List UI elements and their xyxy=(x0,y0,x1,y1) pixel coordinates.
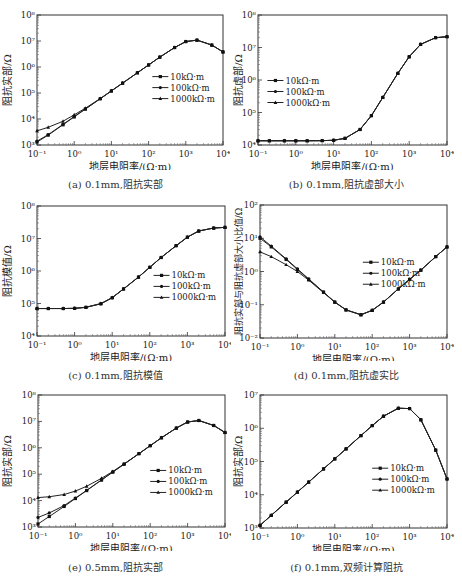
legend-entry: 10kΩ·m xyxy=(381,257,415,267)
legend-entry: 1000kΩ·m xyxy=(172,292,217,302)
y-tick-label: 10⁷ xyxy=(21,36,36,46)
y-tick-label: 10⁶ xyxy=(21,266,36,276)
x-tick-label: 10⁴ xyxy=(440,149,455,159)
y-axis-label: 阻抗模值/Ω xyxy=(1,245,13,297)
y-tick-label: 10⁸ xyxy=(21,201,36,211)
x-tick-label: 10¹ xyxy=(105,340,119,350)
chart-b: 10⁻¹10⁰10¹10²10³10⁴10⁴10⁵10⁶10⁷10⁸地层电阻率/… xyxy=(231,0,462,195)
x-tick-label: 10¹ xyxy=(328,532,342,542)
x-axis-label: 地层电阻率/(Ω·m) xyxy=(311,160,393,170)
x-tick-label: 10⁻¹ xyxy=(251,532,270,542)
y-tick-label: 10⁴ xyxy=(21,331,36,341)
legend-entry: 1000kΩ·m xyxy=(170,94,215,104)
y-tick-label: 10⁶ xyxy=(21,62,36,72)
x-tick-label: 10³ xyxy=(402,532,416,542)
legend-entry: 100kΩ·m xyxy=(172,281,211,291)
x-tick-label: 10² xyxy=(365,532,379,542)
x-axis-label: 地层电阻率/(Ω·m) xyxy=(312,543,394,551)
y-tick-label: 10⁷ xyxy=(22,416,37,426)
legend-entry: 10kΩ·m xyxy=(168,465,202,475)
chart-f-caption: (f) 0.1mm,双频计算阻抗 xyxy=(231,559,462,574)
chart-a-plot: 10⁻¹10⁰10¹10²10³10⁴10³10⁴10⁵10⁶10⁷10⁸地层电… xyxy=(0,0,231,170)
x-tick-label: 10³ xyxy=(179,149,193,159)
y-tick-label: 10⁷ xyxy=(242,43,257,53)
y-tick-label: 10⁶ xyxy=(22,443,37,453)
x-tick-label: 10⁰ xyxy=(68,531,83,541)
y-tick-label: 10¹ xyxy=(244,233,258,243)
x-tick-label: 10² xyxy=(143,531,157,541)
y-tick-label: 10⁶ xyxy=(242,75,257,85)
chart-b-caption: (b) 0.1mm,阻抗虚部大小 xyxy=(231,176,462,191)
x-tick-label: 10¹ xyxy=(106,531,120,541)
legend-entry: 1000kΩ·m xyxy=(168,487,213,497)
y-tick-label: 10⁷ xyxy=(244,390,259,400)
y-tick-label: 10⁵ xyxy=(22,469,37,479)
x-tick-label: 10⁻¹ xyxy=(28,149,47,159)
legend-entry: 100kΩ·m xyxy=(285,87,324,97)
legend-entry: 1000kΩ·m xyxy=(285,98,330,108)
y-tick-label: 10⁴ xyxy=(21,114,36,124)
x-axis-label: 地层电阻率/(Ω·m) xyxy=(89,160,171,170)
y-tick-label: 10² xyxy=(244,200,258,210)
y-tick-label: 10⁶ xyxy=(244,423,259,433)
legend-entry: 10kΩ·m xyxy=(172,270,206,280)
chart-a: 10⁻¹10⁰10¹10²10³10⁴10³10⁴10⁵10⁶10⁷10⁸地层电… xyxy=(0,0,231,195)
y-tick-label: 10⁵ xyxy=(21,299,36,309)
y-tick-label: 10³ xyxy=(22,522,36,532)
x-tick-label: 10⁰ xyxy=(290,342,305,352)
x-tick-label: 10⁰ xyxy=(290,532,305,542)
chart-e-plot: 10⁻¹10⁰10¹10²10³10⁴10³10⁴10⁵10⁶10⁷10⁸地层电… xyxy=(0,381,231,551)
chart-b-plot: 10⁻¹10⁰10¹10²10³10⁴10⁴10⁵10⁶10⁷10⁸地层电阻率/… xyxy=(231,0,462,170)
y-axis-label: 阻抗虚部/Ω xyxy=(232,54,244,106)
chart-d: 10⁻¹10⁰10¹10²10³10⁴10⁻²10⁻¹10⁰10¹10²地层电阻… xyxy=(231,191,462,386)
legend-entry: 1000kΩ·m xyxy=(390,485,435,495)
chart-d-plot: 10⁻¹10⁰10¹10²10³10⁴10⁻²10⁻¹10⁰10¹10²地层电阻… xyxy=(231,191,462,361)
x-tick-label: 10⁰ xyxy=(67,149,82,159)
x-tick-label: 10⁰ xyxy=(67,340,82,350)
chart-d-caption: (d) 0.1mm,阻抗虚实比 xyxy=(231,367,462,382)
x-tick-label: 10⁴ xyxy=(218,531,231,541)
x-axis-label: 地层电阻率/(Ω·m) xyxy=(90,351,172,361)
legend-entry: 10kΩ·m xyxy=(285,76,319,86)
x-axis-label: 地层电阻率/(Ω·m) xyxy=(312,353,394,361)
legend-entry: 1000kΩ·m xyxy=(381,279,426,289)
x-tick-label: 10⁰ xyxy=(289,149,304,159)
chart-c-plot: 10⁻¹10⁰10¹10²10³10⁴10⁴10⁵10⁶10⁷10⁸地层电阻率/… xyxy=(0,191,231,361)
x-tick-label: 10³ xyxy=(180,340,194,350)
chart-c-caption: (c) 0.1mm,阻抗模值 xyxy=(0,367,231,382)
x-tick-label: 10⁴ xyxy=(216,149,231,159)
x-tick-label: 10² xyxy=(365,342,379,352)
chart-c: 10⁻¹10⁰10¹10²10³10⁴10⁴10⁵10⁶10⁷10⁸地层电阻率/… xyxy=(0,191,231,386)
x-tick-label: 10⁴ xyxy=(218,340,231,350)
legend-entry: 10kΩ·m xyxy=(170,72,204,82)
y-tick-label: 10⁸ xyxy=(242,10,257,20)
x-tick-label: 10³ xyxy=(180,531,194,541)
y-tick-label: 10⁸ xyxy=(21,10,36,20)
y-axis-label: 阻抗实部/Ω xyxy=(1,54,13,106)
x-tick-label: 10⁻¹ xyxy=(28,340,47,350)
legend-entry: 100kΩ·m xyxy=(168,476,207,486)
y-axis-label: 阻抗实部与阻抗虚部大小比值/Ω xyxy=(233,208,244,336)
y-axis-label: 阻抗实部/Ω xyxy=(1,435,13,487)
chart-e: 10⁻¹10⁰10¹10²10³10⁴10³10⁴10⁵10⁶10⁷10⁸地层电… xyxy=(0,381,231,576)
x-tick-label: 10² xyxy=(364,149,378,159)
y-tick-label: 10⁸ xyxy=(22,390,37,400)
x-tick-label: 10¹ xyxy=(326,149,340,159)
y-tick-label: 10⁵ xyxy=(21,88,36,98)
legend-entry: 100kΩ·m xyxy=(390,474,429,484)
x-tick-label: 10² xyxy=(141,149,155,159)
x-tick-label: 10⁻¹ xyxy=(251,342,270,352)
y-tick-label: 10⁰ xyxy=(244,267,259,277)
y-tick-label: 10⁴ xyxy=(244,490,259,500)
y-tick-label: 10⁵ xyxy=(242,108,257,118)
x-tick-label: 10⁴ xyxy=(440,532,455,542)
x-tick-label: 10² xyxy=(143,340,157,350)
y-tick-label: 10⁵ xyxy=(244,457,259,467)
chart-a-caption: (a) 0.1mm,阻抗实部 xyxy=(0,176,231,191)
chart-f-plot: 10⁻¹10⁰10¹10²10³10⁴10³10⁴10⁵10⁶10⁷地层电阻率/… xyxy=(231,381,462,551)
y-tick-label: 10³ xyxy=(21,140,35,150)
y-tick-label: 10⁴ xyxy=(242,140,257,150)
y-tick-label: 10⁴ xyxy=(22,496,37,506)
legend-entry: 100kΩ·m xyxy=(381,268,420,278)
x-tick-label: 10⁴ xyxy=(440,342,455,352)
